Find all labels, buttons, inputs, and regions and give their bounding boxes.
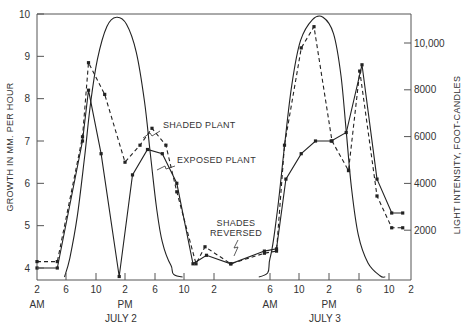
- x-day-label: JULY 2: [105, 313, 137, 324]
- y-tick-label: 5: [24, 220, 30, 231]
- shaded-plant-point: [275, 250, 278, 253]
- y-tick-label: 8: [24, 93, 30, 104]
- x-day-label: JULY 3: [309, 313, 341, 324]
- y-tick-label: 9: [24, 51, 30, 62]
- exposed-plant-point: [175, 182, 178, 185]
- light-intensity-line: [65, 16, 386, 277]
- shaded-plant-point: [390, 226, 393, 229]
- light-intensity-layer: [65, 16, 386, 277]
- shaded-plant-point: [87, 61, 90, 64]
- x-tick-label: 2: [211, 284, 217, 295]
- shaded-plant-point: [229, 262, 232, 265]
- shaded-plant-point: [263, 252, 266, 255]
- annotation-exposed-pointer: [157, 166, 175, 170]
- exposed-plant-point: [375, 178, 378, 181]
- shaded-plant-point: [164, 144, 167, 147]
- annotation-reversed-pointer: [234, 240, 238, 256]
- x-tick-label: 2: [326, 284, 332, 295]
- exposed-plant-point: [401, 211, 404, 214]
- shaded-plant-point: [203, 245, 206, 248]
- y-tick-label: 10: [19, 9, 31, 20]
- shaded-plant-point: [401, 226, 404, 229]
- growth-light-chart: 45678910200040006000800010,0002610261026…: [0, 0, 469, 326]
- y-axis-title: GROWTH IN MM. PER HOUR: [5, 82, 15, 211]
- axes-layer: 45678910200040006000800010,0002610261026…: [5, 9, 462, 325]
- exposed-plant-point: [118, 275, 121, 278]
- exposed-plant-point: [131, 173, 134, 176]
- shaded-plant-point: [150, 127, 153, 130]
- shaded-plant-point: [81, 135, 84, 138]
- shaded-plant-point: [330, 139, 333, 142]
- x-tick-label: 2: [122, 284, 128, 295]
- x-tick-label: 2: [408, 284, 414, 295]
- shaded-plant-point: [283, 144, 286, 147]
- shaded-plant-point: [138, 144, 141, 147]
- shaded-plant-point: [194, 262, 197, 265]
- y2-axis-title: LIGHT INTENSITY, FOOT-CANDLES: [452, 76, 462, 234]
- shaded-plant-point: [312, 25, 315, 28]
- x-ampm-label: PM: [322, 299, 337, 310]
- exposed-plant-point: [360, 63, 363, 66]
- annotation-shades: SHADES: [217, 218, 256, 228]
- x-tick-label: 6: [63, 284, 69, 295]
- x-tick-label: 6: [356, 284, 362, 295]
- exposed-plant-point: [56, 266, 59, 269]
- x-ampm-label: AM: [30, 299, 45, 310]
- shaded-plant-point: [123, 161, 126, 164]
- x-tick-label: 6: [152, 284, 158, 295]
- annotation-exposed-plant: EXPOSED PLANT: [177, 155, 256, 165]
- x-tick-label: 6: [267, 284, 273, 295]
- exposed-plant-point: [146, 148, 149, 151]
- shaded-plant-point: [35, 260, 38, 263]
- y-tick-label: 6: [24, 178, 30, 189]
- x-tick-label: 2: [34, 284, 40, 295]
- exposed-plant-point: [87, 89, 90, 92]
- y2-tick-label: 2000: [414, 225, 437, 236]
- exposed-plant-point: [100, 152, 103, 155]
- exposed-plant-point: [205, 254, 208, 257]
- exposed-plant-point: [191, 262, 194, 265]
- exposed-plant-point: [161, 152, 164, 155]
- y-tick-label: 7: [24, 136, 30, 147]
- exposed-plant-point: [314, 139, 317, 142]
- x-ampm-label: AM: [263, 299, 278, 310]
- y-tick-label: 4: [24, 263, 30, 274]
- shaded-plant-point: [347, 169, 350, 172]
- exposed-plant-point: [284, 178, 287, 181]
- y2-tick-label: 4000: [414, 178, 437, 189]
- y2-tick-label: 8000: [414, 84, 437, 95]
- x-tick-label: 10: [90, 284, 102, 295]
- shaded-plant-point: [300, 46, 303, 49]
- exposed-plant-point: [300, 152, 303, 155]
- x-ampm-label: PM: [118, 299, 133, 310]
- x-tick-label: 10: [178, 284, 190, 295]
- plot-frame: [37, 14, 411, 280]
- shaded-plant-point: [103, 93, 106, 96]
- y2-tick-label: 10,000: [414, 38, 445, 49]
- annotation-reversed: REVERSED: [210, 228, 262, 238]
- annotation-shaded-plant: SHADED PLANT: [163, 120, 236, 130]
- exposed-plant-point: [345, 131, 348, 134]
- shaded-plant-point: [175, 190, 178, 193]
- x-tick-label: 10: [383, 284, 395, 295]
- shaded-plant-point: [358, 70, 361, 73]
- y2-tick-label: 6000: [414, 131, 437, 142]
- x-tick-label: 10: [293, 284, 305, 295]
- shaded-plant-point: [56, 260, 59, 263]
- exposed-plant-point: [390, 211, 393, 214]
- shaded-plant-point: [375, 194, 378, 197]
